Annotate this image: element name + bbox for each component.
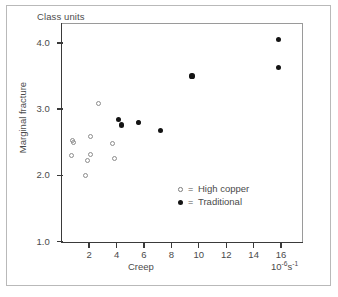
x-tick-mark bbox=[280, 243, 281, 248]
data-point-traditional bbox=[276, 65, 281, 70]
y-tick-mark bbox=[57, 241, 63, 242]
x-units-second-exponent: -1 bbox=[292, 260, 298, 267]
data-point-traditional bbox=[189, 73, 194, 78]
y-axis-label: Marginal fracture bbox=[17, 58, 28, 178]
legend-item: =Traditional bbox=[178, 195, 249, 208]
x-tick-label: 14 bbox=[244, 249, 264, 260]
legend-equals-sign: = bbox=[188, 184, 198, 194]
chart-title: Class units bbox=[37, 11, 85, 22]
chart-legend: =High copper=Traditional bbox=[178, 182, 249, 208]
x-tick-label: 2 bbox=[79, 249, 99, 260]
x-axis-units: 10-6s-1 bbox=[271, 261, 298, 272]
y-tick-label: 2.0 bbox=[24, 169, 50, 180]
y-axis-line bbox=[61, 23, 62, 243]
y-tick-mark bbox=[57, 175, 63, 176]
x-tick-mark bbox=[226, 243, 227, 248]
x-axis-label: Creep bbox=[128, 261, 154, 272]
legend-label: High copper bbox=[198, 183, 249, 194]
x-tick-label: 6 bbox=[134, 249, 154, 260]
data-point-traditional bbox=[119, 122, 124, 127]
x-tick-label: 16 bbox=[271, 249, 291, 260]
x-tick-mark bbox=[116, 243, 117, 248]
figure-root: Class units 1.02.03.04.0 246810121416 Ma… bbox=[0, 0, 338, 297]
x-tick-mark bbox=[143, 243, 144, 248]
y-tick-label: 1.0 bbox=[24, 236, 50, 247]
x-tick-label: 10 bbox=[189, 249, 209, 260]
legend-label: Traditional bbox=[198, 196, 242, 207]
data-point-traditional bbox=[276, 37, 281, 42]
y-tick-label: 4.0 bbox=[24, 37, 50, 48]
x-axis-line bbox=[61, 242, 303, 243]
data-point-traditional bbox=[136, 120, 141, 125]
open-circle-icon bbox=[178, 183, 188, 194]
data-point-high-copper bbox=[88, 152, 93, 157]
y-tick-mark bbox=[57, 108, 63, 109]
data-point-high-copper bbox=[83, 173, 88, 178]
x-tick-label: 8 bbox=[161, 249, 181, 260]
legend-item: =High copper bbox=[178, 182, 249, 195]
data-point-high-copper bbox=[110, 141, 115, 146]
x-tick-label: 12 bbox=[216, 249, 236, 260]
filled-circle-icon bbox=[178, 196, 188, 207]
y-tick-label: 3.0 bbox=[24, 103, 50, 114]
x-tick-mark bbox=[171, 243, 172, 248]
legend-equals-sign: = bbox=[188, 197, 198, 207]
x-tick-mark bbox=[253, 243, 254, 248]
data-point-traditional bbox=[158, 128, 163, 133]
x-units-base: 10 bbox=[271, 261, 282, 272]
plot-area bbox=[62, 23, 303, 242]
x-tick-label: 4 bbox=[107, 249, 127, 260]
x-tick-mark bbox=[88, 243, 89, 248]
y-tick-mark bbox=[57, 42, 63, 43]
data-point-high-copper bbox=[85, 158, 90, 163]
x-tick-mark bbox=[198, 243, 199, 248]
